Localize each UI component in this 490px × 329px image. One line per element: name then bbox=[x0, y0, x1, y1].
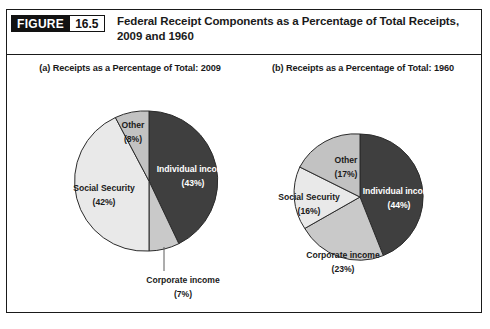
pie-label-social-security-1960: Social Security bbox=[278, 192, 340, 202]
pie-value-other-2009: (8%) bbox=[124, 134, 142, 144]
pie-value-corporate-income-1960: (23%) bbox=[332, 264, 355, 274]
chart-panel-1960: (b) Receipts as a Percentage of Total: 1… bbox=[247, 55, 479, 313]
pie-chart-1960: Individual income (44%) Corporate income… bbox=[247, 55, 479, 313]
pie-value-corporate-income-2009: (7%) bbox=[174, 289, 192, 299]
figure-tag-word: FIGURE bbox=[11, 15, 70, 32]
pie-label-corporate-income-1960: Corporate income bbox=[306, 250, 380, 260]
pie-svg-2009: Individual income (43%) Social Security … bbox=[11, 55, 249, 313]
pie-chart-2009: Individual income (43%) Social Security … bbox=[11, 55, 249, 313]
pie-label-other-1960: Other bbox=[335, 155, 359, 165]
figure-page: FIGURE 16.5 Federal Receipt Components a… bbox=[0, 0, 490, 329]
pie-label-social-security-2009: Social Security bbox=[73, 183, 135, 193]
charts-container: (a) Receipts as a Percentage of Total: 2… bbox=[7, 55, 481, 313]
pie-label-individual-income-2009: Individual income bbox=[157, 164, 230, 174]
pie-svg-1960: Individual income (44%) Corporate income… bbox=[247, 55, 479, 313]
pie-value-other-1960: (17%) bbox=[335, 169, 358, 179]
pie-value-social-security-2009: (42%) bbox=[93, 197, 116, 207]
figure-title: Federal Receipt Components as a Percenta… bbox=[117, 14, 467, 44]
pie-value-social-security-1960: (16%) bbox=[298, 206, 321, 216]
pie-label-other-2009: Other bbox=[122, 120, 146, 130]
pie-label-corporate-income-2009: Corporate income bbox=[146, 275, 220, 285]
figure-header: FIGURE 16.5 Federal Receipt Components a… bbox=[7, 10, 481, 54]
figure-frame: FIGURE 16.5 Federal Receipt Components a… bbox=[6, 9, 482, 313]
figure-number: 16.5 bbox=[70, 15, 104, 32]
pie-value-individual-income-1960: (44%) bbox=[388, 200, 411, 210]
pie-value-individual-income-2009: (43%) bbox=[182, 178, 205, 188]
figure-tag: FIGURE 16.5 bbox=[11, 15, 105, 32]
chart-panel-2009: (a) Receipts as a Percentage of Total: 2… bbox=[11, 55, 249, 313]
pie-label-individual-income-1960: Individual income bbox=[363, 186, 436, 196]
